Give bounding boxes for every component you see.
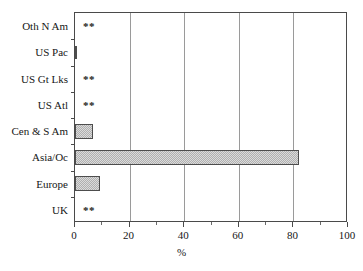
suppressed-marker-oth-n-am: ** <box>83 21 95 32</box>
x-axis-label-60: 60 <box>228 230 248 241</box>
x-axis-tick-30 <box>156 222 157 225</box>
y-axis-label-asia-oc: Asia/Oc <box>32 152 68 163</box>
x-axis-tick-70 <box>265 222 266 225</box>
suppressed-marker-us-gt-lks: ** <box>83 74 95 85</box>
bar-row-europe <box>75 171 100 197</box>
y-axis-tick-1 <box>71 39 75 40</box>
x-axis-title: % <box>0 247 363 258</box>
bar-row-us-pac <box>75 39 77 65</box>
gridline-20 <box>130 13 131 221</box>
y-axis-tick-5 <box>71 144 75 145</box>
x-axis-tick-90 <box>320 222 321 225</box>
plot-area: ** ** ** ** <box>74 12 347 222</box>
x-axis-tick-10 <box>101 222 102 225</box>
bar-row-cen-s-am <box>75 118 93 144</box>
suppressed-marker-us-atl: ** <box>83 100 95 111</box>
x-axis-tick-20 <box>129 222 130 227</box>
gridline-40 <box>184 13 185 221</box>
y-axis-label-oth-n-am: Oth N Am <box>22 21 68 32</box>
x-axis-label-40: 40 <box>173 230 193 241</box>
y-axis-tick-6 <box>71 171 75 172</box>
suppressed-marker-uk: ** <box>83 205 95 216</box>
bar-europe <box>75 176 100 191</box>
x-axis-label-0: 0 <box>64 230 84 241</box>
y-axis-label-us-gt-lks: US Gt Lks <box>21 74 68 85</box>
y-axis-label-cen-s-am: Cen & S Am <box>11 126 68 137</box>
x-axis-tick-100 <box>347 222 348 227</box>
y-axis-label-us-atl: US Atl <box>38 100 68 111</box>
y-axis-tick-7 <box>71 197 75 198</box>
x-axis-label-100: 100 <box>334 230 360 241</box>
x-axis-tick-50 <box>211 222 212 225</box>
x-axis-tick-40 <box>183 222 184 227</box>
y-axis-label-us-pac: US Pac <box>35 47 68 58</box>
x-axis-label-20: 20 <box>119 230 139 241</box>
gridline-60 <box>239 13 240 221</box>
x-axis-tick-0 <box>74 222 75 227</box>
x-axis-label-80: 80 <box>282 230 302 241</box>
y-axis-tick-2 <box>71 66 75 67</box>
x-axis-tick-60 <box>238 222 239 227</box>
bar-chart: ** ** ** ** <box>0 0 363 271</box>
x-axis-tick-80 <box>292 222 293 227</box>
y-axis-label-uk: UK <box>52 205 68 216</box>
gridline-80 <box>293 13 294 221</box>
bar-row-asia-oc <box>75 144 299 170</box>
bar-cen-s-am <box>75 124 93 139</box>
bar-us-pac <box>75 46 77 59</box>
bar-asia-oc <box>75 150 299 165</box>
y-axis-tick-3 <box>71 92 75 93</box>
y-axis-label-europe: Europe <box>36 179 68 190</box>
y-axis-tick-4 <box>71 118 75 119</box>
